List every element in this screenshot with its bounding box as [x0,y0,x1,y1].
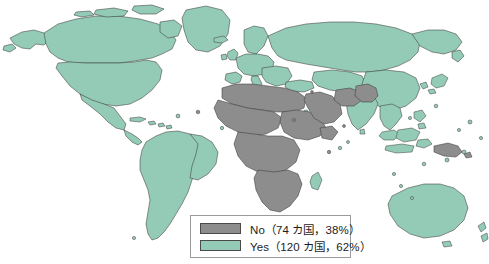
legend-label-no: No（74 カ国，38%） [250,221,360,237]
legend-swatch-no-icon [200,223,241,234]
legend-label-yes: Yes（120 カ国，62%） [250,238,371,254]
legend-swatch-yes-icon [200,240,241,251]
legend-item-yes: Yes（120 カ国，62%） [200,237,350,254]
map-legend: No（74 カ国，38%） Yes（120 カ国，62%） [190,215,351,258]
legend-item-no: No（74 カ国，38%） [200,220,350,237]
